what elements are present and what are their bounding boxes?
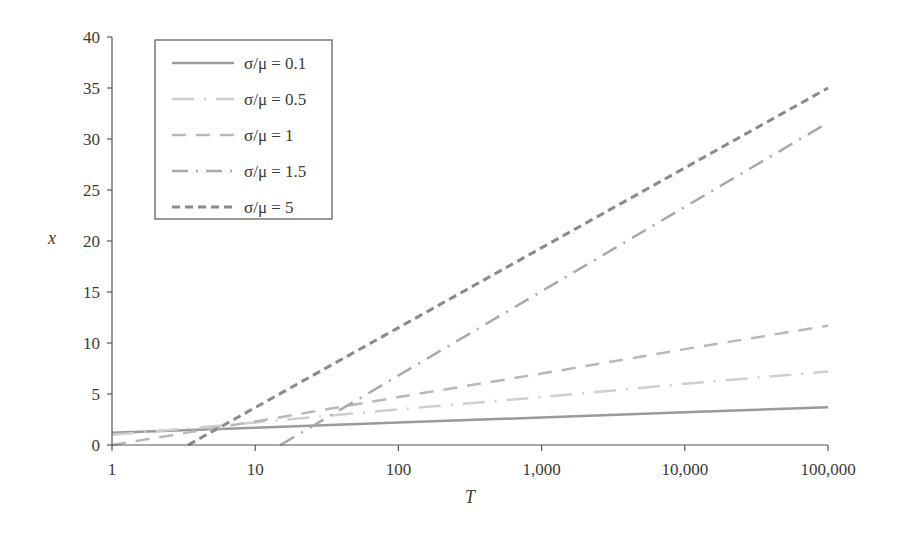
y-tick-label: 0 <box>92 436 101 455</box>
series-line-0 <box>112 407 828 433</box>
legend-label-2: σ/μ = 1 <box>244 126 294 145</box>
series-line-1 <box>112 372 828 435</box>
y-tick-label: 25 <box>83 181 100 200</box>
x-axis-title: T <box>465 487 477 507</box>
y-tick-label: 5 <box>92 385 101 404</box>
x-tick-label: 100,000 <box>800 460 855 479</box>
x-tick-label: 1 <box>108 460 117 479</box>
x-tick-label: 10 <box>247 460 264 479</box>
legend-label-3: σ/μ = 1.5 <box>244 162 306 181</box>
y-tick-label: 30 <box>83 130 100 149</box>
x-tick-label: 10,000 <box>661 460 708 479</box>
x-tick-label: 100 <box>386 460 412 479</box>
y-tick-label: 35 <box>83 79 100 98</box>
x-tick-label: 1,000 <box>522 460 560 479</box>
y-tick-label: 20 <box>83 232 100 251</box>
y-tick-label: 10 <box>83 334 100 353</box>
legend: σ/μ = 0.1σ/μ = 0.5σ/μ = 1σ/μ = 1.5σ/μ = … <box>155 40 332 219</box>
y-tick-label: 40 <box>83 28 100 47</box>
chart: 05101520253035401101001,00010,000100,000… <box>0 0 903 534</box>
legend-label-0: σ/μ = 0.1 <box>244 54 306 73</box>
series-line-2 <box>112 326 828 445</box>
y-tick-label: 15 <box>83 283 100 302</box>
legend-label-1: σ/μ = 0.5 <box>244 90 306 109</box>
y-axis-title: x <box>47 228 56 248</box>
legend-label-4: σ/μ = 5 <box>244 198 294 217</box>
